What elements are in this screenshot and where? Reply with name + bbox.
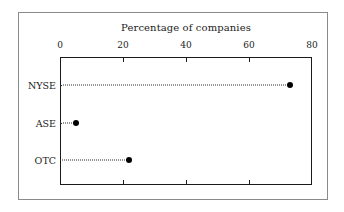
x-tick-mark-bottom-20 bbox=[123, 180, 124, 185]
category-label-otc: OTC bbox=[35, 155, 56, 166]
x-tick-mark-bottom-60 bbox=[249, 180, 250, 185]
plot-area-frame bbox=[60, 57, 312, 185]
category-label-ase: ASE bbox=[36, 118, 56, 129]
x-tick-label-20: 20 bbox=[117, 40, 128, 50]
x-tick-label-80: 80 bbox=[306, 40, 317, 50]
data-point-otc bbox=[126, 157, 132, 163]
x-tick-label-60: 60 bbox=[243, 40, 254, 50]
chart-title: Percentage of companies bbox=[60, 22, 312, 33]
x-tick-label-40: 40 bbox=[180, 40, 191, 50]
x-tick-mark-top-60 bbox=[249, 57, 250, 62]
x-tick-label-0: 0 bbox=[57, 40, 63, 50]
x-tick-mark-top-40 bbox=[186, 57, 187, 62]
x-tick-mark-bottom-40 bbox=[186, 180, 187, 185]
x-tick-mark-top-20 bbox=[123, 57, 124, 62]
leader-line-otc bbox=[60, 160, 129, 161]
data-point-ase bbox=[73, 120, 79, 126]
leader-line-nyse bbox=[60, 85, 290, 86]
figure-container: Percentage of companies 020406080 NYSEAS… bbox=[0, 0, 344, 212]
data-point-nyse bbox=[287, 82, 293, 88]
category-label-nyse: NYSE bbox=[28, 80, 56, 91]
